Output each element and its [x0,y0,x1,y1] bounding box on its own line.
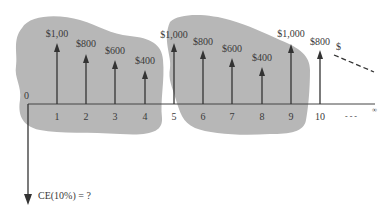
svg-text:6: 6 [201,111,206,122]
svg-text:$800: $800 [76,38,96,49]
svg-text:2: 2 [84,111,89,122]
svg-text:3: 3 [113,111,118,122]
continuation-label: $ [336,41,341,52]
continuation-dash [334,55,374,72]
svg-text:4: 4 [143,111,148,122]
svg-text:$600: $600 [222,43,242,54]
svg-text:1: 1 [55,111,60,122]
svg-text:$800: $800 [193,36,213,47]
svg-text:10: 10 [315,111,325,122]
svg-text:$1,000: $1,000 [277,28,305,39]
svg-text:$1,00: $1,00 [46,28,69,39]
svg-text:$800: $800 [310,36,330,47]
svg-text:$400: $400 [252,52,272,63]
svg-text:5: 5 [172,111,177,122]
origin-label: 0 [24,90,29,101]
infinity-mark: ∞ [372,106,377,114]
svg-text:$400: $400 [135,55,155,66]
svg-text:8: 8 [260,111,265,122]
cycle-cloud-1 [16,16,164,134]
svg-text:$1,000: $1,000 [160,29,188,40]
result-label: CE(10%) = ? [38,190,91,202]
svg-text:$600: $600 [105,45,125,56]
svg-text:9: 9 [289,111,294,122]
ellipsis: - - - [345,112,357,121]
cash-flow-diagram: 0 1 2 3 4 5 6 7 8 9 10 - - - ∞ $1,00 $80… [0,0,390,213]
svg-text:7: 7 [230,111,235,122]
ce-arrow-head [24,194,32,205]
